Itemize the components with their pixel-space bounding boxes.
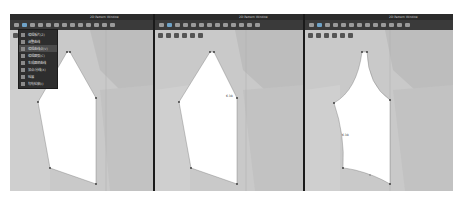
curve-point-tool-icon[interactable] <box>316 33 321 38</box>
pattern-piece[interactable] <box>155 30 303 191</box>
lock-tool-icon[interactable] <box>190 33 195 38</box>
pattern-window-3: 2D Pattern Window 6.38 <box>305 14 453 191</box>
subtools <box>308 33 353 38</box>
rectangle-tool-icon[interactable] <box>183 23 188 27</box>
add-point-icon <box>21 68 25 72</box>
pattern-window-2: 2D Pattern Window 6.38 <box>155 14 303 191</box>
select-tool-icon[interactable] <box>159 23 164 27</box>
edit-arc-icon <box>21 54 25 58</box>
grid-tool-icon[interactable] <box>94 23 99 27</box>
menu-item-adjust-curve[interactable]: 调整曲线 <box>19 38 57 45</box>
menu-item-edit-arc[interactable]: 编辑圆弧(C) <box>19 52 57 59</box>
pen-tool-icon[interactable] <box>397 23 402 27</box>
smooth-curve-icon <box>21 61 25 65</box>
edit-tool-icon[interactable] <box>158 33 163 38</box>
edit-tools-menu: 编辑板片(Z) 调整曲线 编辑曲线点(V) 编辑圆弧(C) 生成圆顺曲线 加点/… <box>18 29 58 89</box>
fill-tool-icon[interactable] <box>324 33 329 38</box>
extend-icon <box>21 75 25 79</box>
point-tool-icon[interactable] <box>46 23 51 27</box>
fill-tool-icon[interactable] <box>174 33 179 38</box>
measurement-label: 6.38 <box>342 133 349 137</box>
select-tool-icon[interactable] <box>309 23 314 27</box>
person-tool-icon[interactable] <box>348 33 353 38</box>
trace-outline-icon <box>21 82 25 86</box>
seam-tool-icon[interactable] <box>215 23 220 27</box>
toolbar <box>155 20 303 30</box>
menu-item-trace-outline[interactable]: 勾勒轮廓(I) <box>19 80 57 87</box>
curve-tool-icon[interactable] <box>62 23 67 27</box>
fold-tool-icon[interactable] <box>78 23 83 27</box>
grid-tool-icon[interactable] <box>389 23 394 27</box>
curve-point-tool-icon[interactable] <box>166 33 171 38</box>
rectangle-tool-icon[interactable] <box>38 23 43 27</box>
rectangle-tool-icon[interactable] <box>333 23 338 27</box>
menu-item-edit-pattern[interactable]: 编辑板片(Z) <box>19 31 57 38</box>
dart-tool-icon[interactable] <box>231 23 236 27</box>
internal-line-tool-icon[interactable] <box>349 23 354 27</box>
menu-item-add-point[interactable]: 加点/分线(X) <box>19 66 57 73</box>
palette-tool-icon[interactable] <box>182 33 187 38</box>
ruler-tool-icon[interactable] <box>255 23 260 27</box>
dart-tool-icon[interactable] <box>381 23 386 27</box>
curve-tool-icon[interactable] <box>207 23 212 27</box>
person-tool-icon[interactable] <box>198 33 203 38</box>
point-tool-icon[interactable] <box>341 23 346 27</box>
select-tool-icon[interactable] <box>14 23 19 27</box>
curve-tool-icon[interactable] <box>357 23 362 27</box>
pattern-canvas[interactable]: 6.38 <box>305 30 453 191</box>
transform-tool-icon[interactable] <box>175 23 180 27</box>
pen-tool-icon[interactable] <box>247 23 252 27</box>
menu-item-smooth-curve[interactable]: 生成圆顺曲线 <box>19 59 57 66</box>
ruler-tool-icon[interactable] <box>405 23 410 27</box>
toolbar <box>305 20 453 30</box>
edit-curve-point-icon <box>21 47 25 51</box>
palette-tool-icon[interactable] <box>332 33 337 38</box>
edit-pattern-tool-icon[interactable] <box>317 23 322 27</box>
transform-tool-icon[interactable] <box>30 23 35 27</box>
pattern-canvas[interactable]: 6.38 <box>155 30 303 191</box>
edit-pattern-icon <box>21 33 25 37</box>
fold-tool-icon[interactable] <box>373 23 378 27</box>
edit-tool-icon[interactable] <box>308 33 313 38</box>
transform-tool-icon[interactable] <box>325 23 330 27</box>
internal-line-tool-icon[interactable] <box>199 23 204 27</box>
point-tool-icon[interactable] <box>191 23 196 27</box>
edit-pattern-tool-icon[interactable] <box>167 23 172 27</box>
pattern-piece[interactable] <box>305 30 453 191</box>
subtools <box>158 33 203 38</box>
measurement-label: 6.38 <box>226 94 233 98</box>
lock-tool-icon[interactable] <box>340 33 345 38</box>
edit-pattern-tool-icon[interactable] <box>22 23 27 27</box>
grid-tool-icon[interactable] <box>239 23 244 27</box>
seam-tool-icon[interactable] <box>365 23 370 27</box>
fold-tool-icon[interactable] <box>223 23 228 27</box>
pen-tool-icon[interactable] <box>102 23 107 27</box>
adjust-curve-icon <box>21 40 25 44</box>
dart-tool-icon[interactable] <box>86 23 91 27</box>
menu-item-extend[interactable]: 延展 <box>19 73 57 80</box>
ruler-tool-icon[interactable] <box>110 23 115 27</box>
internal-line-tool-icon[interactable] <box>54 23 59 27</box>
seam-tool-icon[interactable] <box>70 23 75 27</box>
menu-item-edit-curve-point[interactable]: 编辑曲线点(V) <box>19 45 57 52</box>
